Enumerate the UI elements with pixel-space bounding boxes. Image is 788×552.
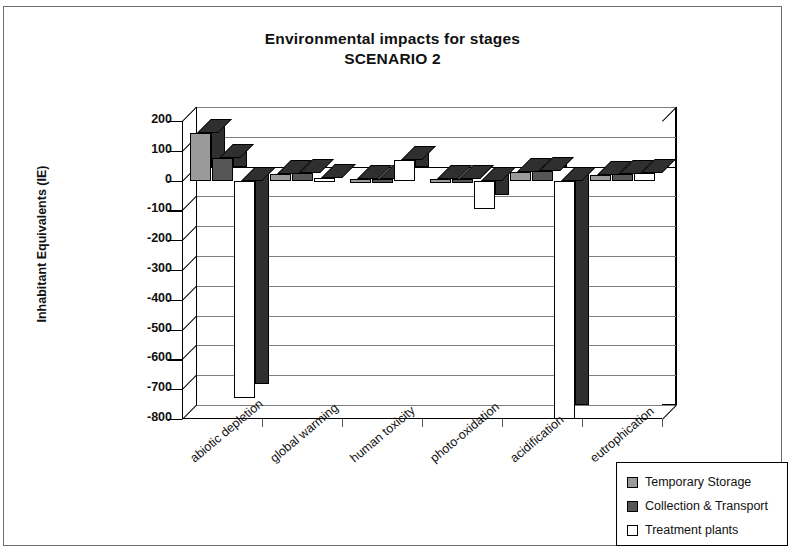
bar [394,160,415,180]
plot-depth-edge [662,405,677,420]
gridline [196,137,676,138]
bar [634,173,655,180]
x-axis-tick [342,419,343,427]
y-axis-tick [168,210,182,211]
y-axis-tick-labels: 2001000-100-200-300-400-500-600-700-800 [108,121,172,419]
bar [430,179,451,183]
gridline [196,405,676,406]
y-axis-tick [168,359,182,360]
chart-title-line2: SCENARIO 2 [4,49,781,69]
chart-frame: Environmental impacts for stages SCENARI… [3,6,782,546]
legend-swatch-icon [627,525,638,536]
legend-label: Treatment plants [645,523,738,537]
y-axis-tick-label: -300 [112,261,172,275]
y-axis-tick-label: -800 [112,410,172,424]
bar [190,133,211,181]
legend-label: Collection & Transport [645,499,768,513]
y-axis-tick-label: -700 [112,380,172,394]
y-axis-tick [168,270,182,271]
x-axis-tick [422,419,423,427]
y-axis-tick [168,181,182,182]
y-axis-tick-label: -400 [112,291,172,305]
bar [350,179,371,183]
legend-swatch-icon [627,501,638,512]
bar [510,172,531,181]
bar [474,181,495,209]
x-axis-tick [662,419,663,427]
y-axis-tick-label: -500 [112,321,172,335]
bar [292,173,313,180]
y-axis-tick [168,330,182,331]
bar [452,179,473,183]
bar-side-face [575,167,589,405]
y-axis-tick-label: 0 [112,172,172,186]
y-axis-tick [168,389,182,390]
legend-item: Collection & Transport [627,494,787,518]
y-axis-tick [168,240,182,241]
y-axis-tick [168,151,182,152]
bar [314,178,335,182]
bar-side-face [255,167,269,385]
plot-back-edge [676,107,677,405]
bar [590,175,611,181]
chart-title: Environmental impacts for stages SCENARI… [4,29,781,69]
chart-legend: Temporary StorageCollection & TransportT… [616,462,788,546]
x-axis-tick [582,419,583,427]
bar [270,174,291,181]
bar [612,174,633,181]
y-axis-tick-label: -100 [112,201,172,215]
bar [234,181,255,399]
x-axis-tick [262,419,263,427]
legend-label: Temporary Storage [645,475,751,489]
legend-item: Treatment plants [627,518,787,542]
bar [554,181,575,419]
y-axis-tick [168,300,182,301]
legend-swatch-icon [627,477,638,488]
y-axis-tick [168,121,182,122]
bar [372,179,393,183]
x-axis-tick [502,419,503,427]
chart-title-line1: Environmental impacts for stages [265,30,520,47]
y-axis-tick [168,419,182,420]
plot-floor [182,419,676,433]
bar [532,171,553,181]
plot-area [182,121,662,419]
y-axis-tick-label: 200 [112,112,172,126]
y-axis-tick-label: 100 [112,142,172,156]
bar [212,158,233,180]
gridline [196,107,676,108]
legend-item: Temporary Storage [627,470,787,494]
y-axis-tick-label: -600 [112,350,172,364]
y-axis-title: Inhabitant Equivalents (IE) [35,144,49,344]
y-axis-tick-label: -200 [112,231,172,245]
